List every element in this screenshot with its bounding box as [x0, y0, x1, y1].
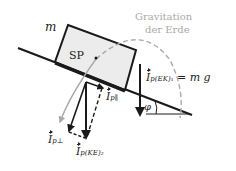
vector-parallel-label: Ip∥ [106, 91, 118, 102]
dashed-helper-1 [87, 88, 102, 137]
angle-label: φ [144, 102, 151, 112]
vector-parallel [86, 82, 103, 88]
vector-perpendicular-label: Ip⊥ [48, 134, 63, 145]
gravity-label-line1: Gravitation [135, 12, 192, 22]
vector-perpendicular [69, 82, 86, 131]
vector-ke2-label: Ip(KE)₂ [76, 146, 103, 157]
vector-ek1-label: Ip(EK)₁ = m g [146, 72, 211, 83]
dashed-helper-2 [69, 132, 85, 138]
inclined-plane-diagram: m SP Gravitation der Erde Ip(EK)₁ = m g … [0, 0, 236, 171]
center-point [95, 57, 98, 60]
gravity-label-line2: der Erde [145, 25, 190, 35]
angle-arc [155, 101, 157, 114]
diagram-graphics [0, 0, 236, 171]
mass-label: m [45, 21, 56, 33]
center-label: SP [69, 50, 84, 61]
